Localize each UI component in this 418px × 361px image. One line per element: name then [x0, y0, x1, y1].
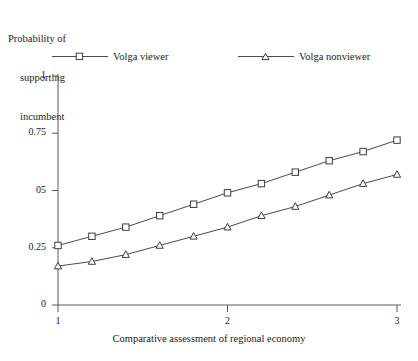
series-line-triangle: [58, 174, 397, 266]
plot-area: [0, 0, 418, 361]
chart-figure: Probability of supporting incumbent Volg…: [0, 0, 418, 361]
square-marker-icon: [258, 180, 264, 186]
y-axis-tick-label: 0: [4, 298, 46, 309]
y-axis-tick-label: 0.25: [4, 241, 46, 252]
x-axis-tick-label: 1: [38, 315, 78, 326]
x-axis-title: Comparative assessment of regional econo…: [0, 333, 418, 344]
square-marker-icon: [123, 224, 129, 230]
y-axis-tick-label: 1: [4, 69, 46, 80]
y-axis-tick-label: 0.75: [4, 126, 46, 137]
y-axis-tick-label: 05: [4, 184, 46, 195]
square-marker-icon: [326, 158, 332, 164]
square-marker-icon: [55, 242, 61, 248]
square-marker-icon: [190, 201, 196, 207]
x-axis-tick-label: 2: [208, 315, 248, 326]
square-marker-icon: [292, 169, 298, 175]
square-marker-icon: [224, 190, 230, 196]
square-marker-icon: [89, 233, 95, 239]
square-marker-icon: [360, 148, 366, 154]
x-axis-tick-label: 3: [377, 315, 417, 326]
square-marker-icon: [157, 212, 163, 218]
triangle-marker-icon: [393, 171, 400, 178]
square-marker-icon: [394, 137, 400, 143]
